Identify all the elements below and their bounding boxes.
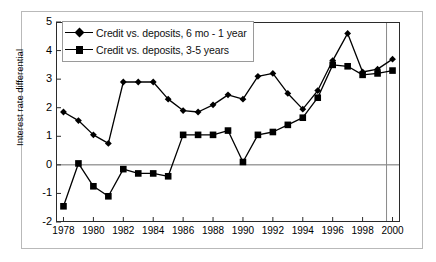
y-tick-label: 5 <box>26 16 52 27</box>
square-marker-icon <box>65 43 93 57</box>
legend-label-3-5-years: Credit vs. deposits, 3-5 years <box>93 44 229 56</box>
y-axis-title: Interest rate differential <box>14 3 25 193</box>
y-tick-label: 4 <box>26 45 52 56</box>
y-tick-label: 3 <box>26 73 52 84</box>
chart-figure: Interest rate differential 543210-1-2 19… <box>0 0 436 262</box>
y-tick-label: 0 <box>26 159 52 170</box>
y-tick-label: -1 <box>26 187 52 198</box>
diamond-marker-icon <box>65 26 93 40</box>
x-tick-label: 2000 <box>373 225 413 236</box>
y-tick-label: 2 <box>26 102 52 113</box>
legend-label-6mo-1year: Credit vs. deposits, 6 mo - 1 year <box>93 27 247 39</box>
legend-item-3-5-years: Credit vs. deposits, 3-5 years <box>65 41 247 58</box>
chart-legend: Credit vs. deposits, 6 mo - 1 year Credi… <box>62 21 254 62</box>
legend-item-6mo-1year: Credit vs. deposits, 6 mo - 1 year <box>65 24 247 41</box>
y-tick-label: 1 <box>26 130 52 141</box>
